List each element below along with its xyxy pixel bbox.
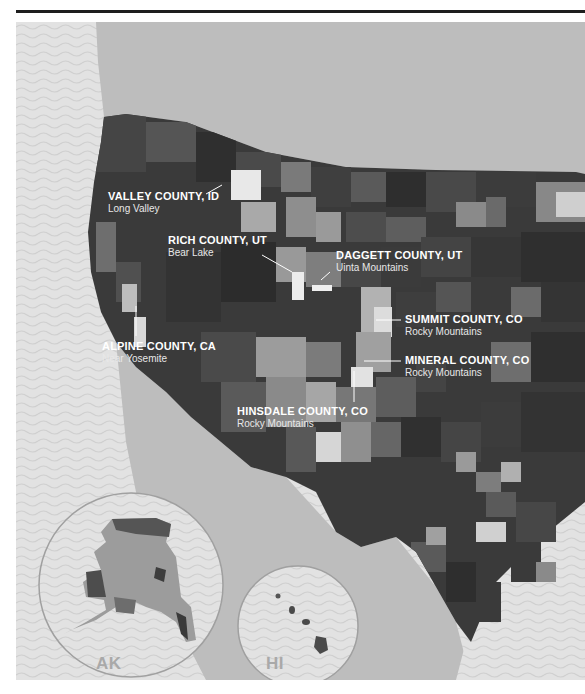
annotation-hinsdale-county: HINSDALE COUNTY, CO Rocky Mountains bbox=[237, 405, 368, 429]
annotation-sub: Near Yosemite bbox=[102, 353, 216, 365]
annotation-sub: Rocky Mountains bbox=[405, 326, 523, 338]
annotation-sub: Long Valley bbox=[108, 203, 219, 215]
annotation-sub: Rocky Mountains bbox=[237, 418, 368, 430]
annotation-sub: Rocky Mountains bbox=[405, 367, 529, 379]
annotation-name: RICH COUNTY, UT bbox=[168, 234, 267, 247]
annotation-alpine-county: ALPINE COUNTY, CA Near Yosemite bbox=[102, 340, 216, 364]
annotation-name: HINSDALE COUNTY, CO bbox=[237, 405, 368, 418]
annotation-daggett-county: DAGGETT COUNTY, UT Uinta Mountains bbox=[336, 249, 462, 273]
annotation-name: ALPINE COUNTY, CA bbox=[102, 340, 216, 353]
annotation-summit-county: SUMMIT COUNTY, CO Rocky Mountains bbox=[405, 313, 523, 337]
county-map: VALLEY COUNTY, ID Long Valley RICH COUNT… bbox=[16, 22, 585, 680]
inset-label-alaska: AK bbox=[96, 654, 122, 674]
annotation-mineral-county: MINERAL COUNTY, CO Rocky Mountains bbox=[405, 354, 529, 378]
annotation-name: VALLEY COUNTY, ID bbox=[108, 190, 219, 203]
annotation-name: DAGGETT COUNTY, UT bbox=[336, 249, 462, 262]
inset-label-hawaii: HI bbox=[266, 654, 284, 674]
annotation-valley-county: VALLEY COUNTY, ID Long Valley bbox=[108, 190, 219, 214]
annotation-sub: Bear Lake bbox=[168, 247, 267, 259]
annotation-name: MINERAL COUNTY, CO bbox=[405, 354, 529, 367]
top-rule bbox=[16, 10, 585, 13]
annotation-sub: Uinta Mountains bbox=[336, 262, 462, 274]
hawaii-inset-circle bbox=[238, 566, 358, 680]
annotation-rich-county: RICH COUNTY, UT Bear Lake bbox=[168, 234, 267, 258]
annotation-name: SUMMIT COUNTY, CO bbox=[405, 313, 523, 326]
